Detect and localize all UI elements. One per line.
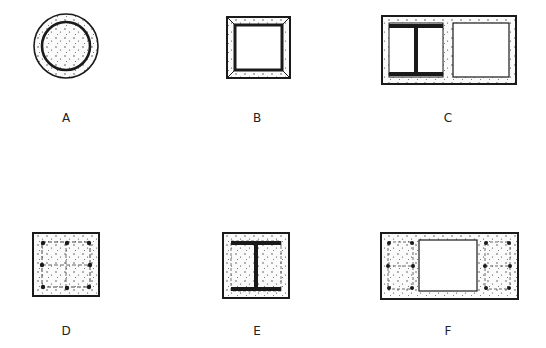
label-a: A <box>46 111 86 125</box>
label-e: E <box>237 324 277 338</box>
section-c-encased-i-and-cell <box>382 16 516 84</box>
label-d: D <box>46 324 86 338</box>
label-b: B <box>237 111 277 125</box>
diagram-canvas <box>0 0 546 348</box>
section-d-reinforced-square <box>33 233 99 296</box>
section-a-circular-tube <box>34 14 98 78</box>
label-f: F <box>428 324 468 338</box>
section-b-square-tube <box>227 17 290 78</box>
label-c: C <box>428 111 468 125</box>
section-f-two-cages-hollow <box>381 233 518 299</box>
section-e-encased-i-section <box>223 233 289 298</box>
